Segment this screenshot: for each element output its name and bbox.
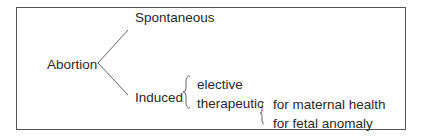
node-abortion: Abortion bbox=[47, 57, 97, 73]
node-induced: Induced bbox=[135, 90, 183, 106]
brace-induced bbox=[183, 76, 190, 108]
node-elective: elective bbox=[197, 77, 243, 93]
node-fetal-anomaly: for fetal anomaly bbox=[273, 116, 373, 132]
node-maternal-health: for maternal health bbox=[273, 97, 386, 113]
node-therapeutic: therapeutic bbox=[197, 96, 264, 112]
node-spontaneous: Spontaneous bbox=[135, 10, 215, 26]
